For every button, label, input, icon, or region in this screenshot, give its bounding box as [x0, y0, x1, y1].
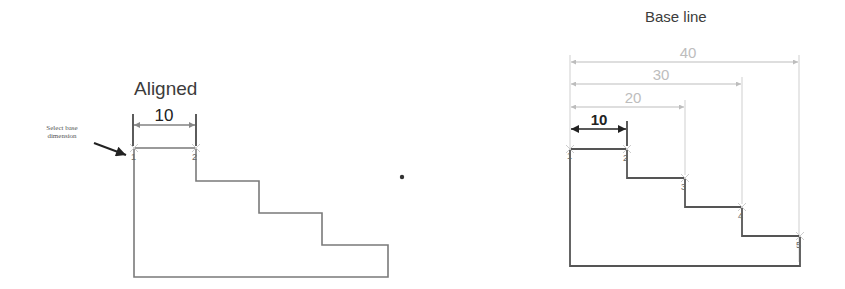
dimension-value: 10	[155, 106, 174, 125]
point-marker[interactable]: 1	[130, 144, 138, 162]
baseline-dimension-10[interactable]: 10	[571, 111, 627, 146]
pointer-arrow-icon	[94, 143, 126, 155]
svg-text:10: 10	[591, 111, 608, 128]
baseline-panel: Base line 40 30 20 10	[566, 8, 804, 266]
svg-text:20: 20	[625, 89, 642, 106]
annotation-line-2: dimension	[47, 132, 77, 140]
point-marker[interactable]: 5	[796, 232, 804, 250]
aligned-title: Aligned	[134, 78, 197, 99]
point-marker[interactable]: 3	[681, 174, 689, 192]
point-marker[interactable]: 4	[738, 203, 746, 221]
point-marker[interactable]: 2	[192, 144, 200, 162]
point-marker[interactable]: 2	[623, 145, 631, 163]
svg-text:40: 40	[680, 44, 697, 61]
svg-text:3: 3	[681, 182, 686, 192]
svg-text:2: 2	[192, 152, 197, 162]
svg-text:2: 2	[623, 153, 628, 163]
svg-text:1: 1	[131, 152, 136, 162]
cursor-dot-icon	[400, 175, 404, 179]
baseline-dimension-30[interactable]: 30	[571, 66, 742, 204]
aligned-panel: Aligned Select base dimension 10 1 2	[46, 78, 388, 277]
svg-text:4: 4	[738, 211, 743, 221]
svg-text:5: 5	[796, 240, 801, 250]
svg-text:1: 1	[567, 151, 572, 161]
aligned-dimension[interactable]: 10	[133, 106, 196, 146]
baseline-title: Base line	[645, 8, 707, 25]
svg-text:30: 30	[653, 66, 670, 83]
aligned-staircase-outline	[134, 148, 388, 277]
annotation-line-1: Select base	[46, 124, 77, 132]
diagram-canvas: Aligned Select base dimension 10 1 2 Bas…	[0, 0, 845, 289]
